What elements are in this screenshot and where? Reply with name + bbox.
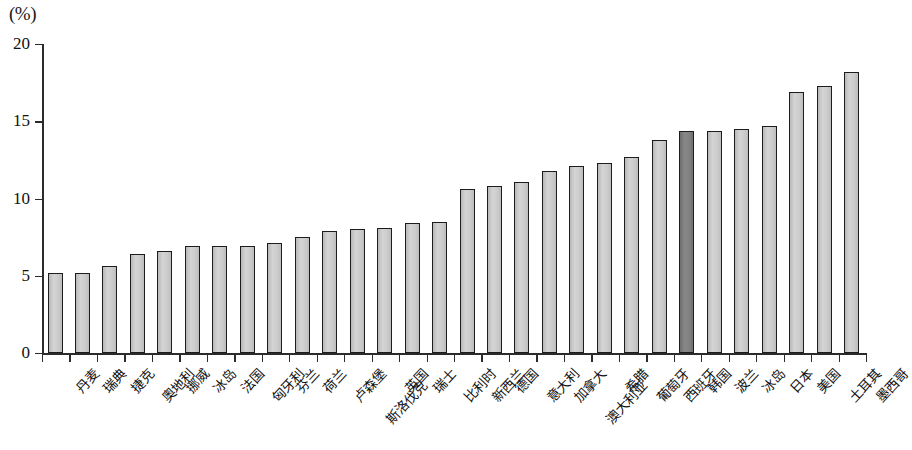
x-axis-labels: 丹麦瑞典捷克奧地利挪威冰岛法国匈牙利芬兰荷兰卢森堡斯洛伐克英国瑞士比利时新西兰德… — [42, 362, 875, 450]
y-axis-tick — [35, 353, 42, 354]
x-axis-tick — [619, 354, 620, 362]
x-axis-tick — [839, 354, 840, 362]
bar[interactable] — [734, 129, 749, 353]
x-axis-tick — [427, 354, 428, 362]
bar[interactable] — [817, 86, 832, 353]
x-axis-tick — [179, 354, 180, 362]
x-axis-category-label: 冰岛 — [757, 364, 789, 397]
x-axis-tick — [372, 354, 373, 362]
y-axis-tick — [35, 121, 42, 122]
bar[interactable] — [405, 223, 420, 353]
bar-slot — [481, 44, 508, 353]
x-axis-tick — [289, 354, 290, 362]
bar[interactable] — [48, 273, 63, 353]
y-axis-tick-label: 10 — [0, 189, 30, 209]
x-axis-tick — [399, 354, 400, 362]
x-axis-tick — [509, 354, 510, 362]
x-axis-tick — [866, 354, 867, 362]
x-axis-tick — [42, 354, 43, 362]
bar[interactable] — [569, 166, 584, 353]
x-axis-tick — [454, 354, 455, 362]
y-axis-tick-label: 15 — [0, 111, 30, 131]
bar-slot — [69, 44, 96, 353]
y-axis-tick-label: 20 — [0, 34, 30, 54]
bar[interactable] — [542, 171, 557, 353]
x-axis-tick — [124, 354, 125, 362]
bar[interactable] — [75, 273, 90, 353]
x-axis-tick — [564, 354, 565, 362]
x-axis-tick — [97, 354, 98, 362]
bar-slot — [536, 44, 563, 353]
bar-slot — [427, 44, 454, 353]
bar-slot — [179, 44, 206, 353]
bar[interactable] — [487, 186, 502, 353]
x-axis-tick — [674, 354, 675, 362]
bar[interactable] — [322, 231, 337, 353]
x-axis-tick — [591, 354, 592, 362]
y-axis-tick — [35, 44, 42, 45]
x-axis-tick — [729, 354, 730, 362]
bar-series — [42, 44, 866, 353]
x-axis-tick — [536, 354, 537, 362]
x-axis-tick — [784, 354, 785, 362]
bar-slot — [564, 44, 591, 353]
bar-slot — [701, 44, 728, 353]
bar[interactable] — [707, 131, 722, 353]
bar[interactable] — [295, 237, 310, 353]
bar[interactable] — [624, 157, 639, 353]
x-axis-tick — [756, 354, 757, 362]
bar[interactable] — [350, 229, 365, 353]
bar[interactable] — [130, 254, 145, 353]
bar-slot — [454, 44, 481, 353]
bar-slot — [344, 44, 371, 353]
x-axis-tick — [234, 354, 235, 362]
bar[interactable] — [102, 266, 117, 353]
bar[interactable] — [212, 246, 227, 353]
bar[interactable] — [185, 246, 200, 353]
x-axis-tick — [701, 354, 702, 362]
bar-slot — [756, 44, 783, 353]
x-axis-category-label: 瑞典 — [98, 364, 130, 397]
x-axis-tick — [152, 354, 153, 362]
bar[interactable] — [679, 131, 694, 353]
bar-slot — [619, 44, 646, 353]
y-axis-tick — [35, 276, 42, 277]
bar[interactable] — [377, 228, 392, 353]
bar[interactable] — [762, 126, 777, 353]
bar[interactable] — [157, 251, 172, 353]
x-axis-category-label: 捷克 — [125, 364, 157, 397]
bar-slot — [42, 44, 69, 353]
bar[interactable] — [267, 243, 282, 353]
bar[interactable] — [240, 246, 255, 353]
bar-slot — [207, 44, 234, 353]
y-axis-unit-label: (%) — [9, 3, 36, 25]
bar-slot — [591, 44, 618, 353]
plot-area: 05101520 — [42, 44, 866, 353]
bar-slot — [646, 44, 673, 353]
bar[interactable] — [844, 72, 859, 353]
x-axis-tick — [481, 354, 482, 362]
bar-slot — [729, 44, 756, 353]
bar[interactable] — [460, 189, 475, 353]
bar[interactable] — [432, 222, 447, 353]
bar[interactable] — [597, 163, 612, 353]
x-axis-tick — [344, 354, 345, 362]
x-axis-tick — [69, 354, 70, 362]
bar-slot — [262, 44, 289, 353]
y-axis-tick — [35, 199, 42, 200]
y-axis-tick-label: 5 — [0, 266, 30, 286]
x-axis-category-label: 荷兰 — [317, 364, 349, 397]
bar[interactable] — [652, 140, 667, 353]
bar-slot — [317, 44, 344, 353]
bar[interactable] — [789, 92, 804, 353]
bar-slot — [784, 44, 811, 353]
x-axis-tick — [262, 354, 263, 362]
x-axis-category-label: 冰岛 — [207, 364, 239, 397]
bar-slot — [124, 44, 151, 353]
bar-slot — [372, 44, 399, 353]
bar[interactable] — [514, 182, 529, 353]
bar-slot — [811, 44, 838, 353]
x-axis-category-label: 法国 — [235, 364, 267, 397]
y-axis-tick-label: 0 — [0, 343, 30, 363]
